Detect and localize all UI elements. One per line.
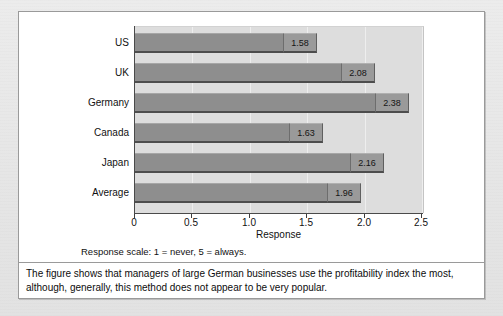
tick-label-0: 0 — [114, 217, 154, 228]
category-label-us: US — [26, 33, 134, 53]
caption-divider — [19, 262, 484, 263]
y-axis-category-labels: US UK Germany Canada Japan Average — [19, 26, 134, 213]
plot-area: 1.58 2.08 2.38 1.63 2.16 1.96 — [134, 26, 423, 214]
bar-uk — [135, 63, 375, 83]
bar-germany — [135, 93, 409, 113]
tick-label-1.5: 1.5 — [286, 217, 326, 228]
tick-label-2.0: 2.0 — [344, 217, 384, 228]
category-label-uk: UK — [26, 63, 134, 83]
bar-value-uk: 2.08 — [341, 63, 375, 83]
bar-value-japan: 2.16 — [350, 153, 384, 173]
gridline-2.0 — [365, 26, 366, 213]
figure-caption: The figure shows that managers of large … — [26, 267, 477, 295]
tick-label-1.0: 1.0 — [229, 217, 269, 228]
response-scale-note: Response scale: 1 = never, 5 = always. — [81, 246, 246, 257]
gridline-2.5 — [422, 26, 423, 213]
x-axis-ticks: 0 0.5 1.0 1.5 2.0 2.5 — [134, 214, 423, 230]
tick-label-0.5: 0.5 — [171, 217, 211, 228]
category-label-average: Average — [26, 183, 134, 203]
bar-value-germany: 2.38 — [375, 93, 409, 113]
tick-label-2.5: 2.5 — [401, 217, 441, 228]
x-axis-title: Response — [134, 229, 423, 240]
bar-value-us: 1.58 — [283, 33, 317, 53]
bar-chart: US UK Germany Canada Japan Average 1.58 … — [19, 12, 484, 244]
bar-value-canada: 1.63 — [289, 123, 323, 143]
figure-card: US UK Germany Canada Japan Average 1.58 … — [18, 11, 485, 299]
category-label-canada: Canada — [26, 123, 134, 143]
bar-japan — [135, 153, 384, 173]
bar-value-average: 1.96 — [327, 183, 361, 203]
category-label-germany: Germany — [26, 93, 134, 113]
category-label-japan: Japan — [26, 153, 134, 173]
